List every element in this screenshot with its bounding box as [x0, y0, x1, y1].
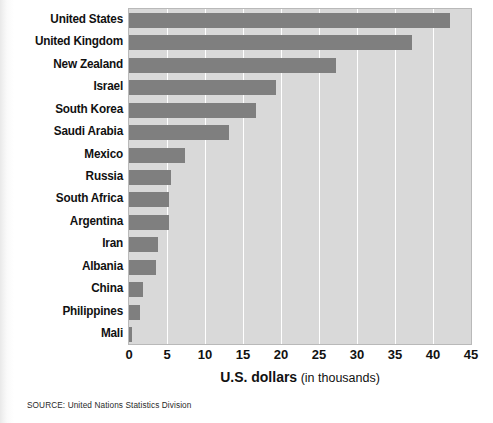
bar [129, 192, 169, 207]
x-tick-label: 20 [274, 347, 288, 363]
bar [129, 237, 158, 252]
y-axis-label: Israel [13, 80, 123, 93]
y-axis-label: Albania [13, 260, 123, 273]
x-tick-label: 40 [426, 347, 440, 363]
bar [129, 103, 256, 118]
x-tick-label: 0 [125, 347, 132, 363]
bar [129, 80, 276, 95]
bar [129, 215, 169, 230]
y-axis-label: Mali [13, 327, 123, 340]
y-axis-label: United Kingdom [13, 35, 123, 48]
gridline [395, 9, 396, 344]
x-axis-title-main: U.S. dollars [220, 369, 297, 385]
y-axis-label: New Zealand [13, 58, 123, 71]
bar [129, 35, 412, 50]
bar [129, 327, 132, 342]
x-axis-title-unit-text: (in thousands) [301, 371, 380, 385]
x-tick-label: 45 [464, 347, 478, 363]
x-tick-label: 5 [163, 347, 170, 363]
bar [129, 260, 156, 275]
gridline [357, 9, 358, 344]
x-tick-label: 30 [350, 347, 364, 363]
y-axis-label: Mexico [13, 148, 123, 161]
bar [129, 148, 185, 163]
y-axis-label: China [13, 282, 123, 295]
y-axis-label: Argentina [13, 215, 123, 228]
bar [129, 305, 140, 320]
x-tick-label: 35 [388, 347, 402, 363]
y-axis-label: Philippines [13, 305, 123, 318]
bar [129, 125, 229, 140]
y-axis-category-labels: United StatesUnited KingdomNew ZealandIs… [6, 8, 123, 345]
gridline [433, 9, 434, 344]
x-tick-label: 25 [312, 347, 326, 363]
bar-chart-figure: United StatesUnited KingdomNew ZealandIs… [0, 0, 493, 423]
bar [129, 282, 143, 297]
x-tick-label: 15 [236, 347, 250, 363]
y-axis-label: Russia [13, 170, 123, 183]
bar [129, 170, 171, 185]
y-axis-label: Saudi Arabia [13, 125, 123, 138]
y-axis-label: United States [13, 13, 123, 26]
x-tick-label: 10 [198, 347, 212, 363]
gridline [471, 9, 472, 344]
y-axis-label: South Africa [13, 192, 123, 205]
source-note: SOURCE: United Nations Statistics Divisi… [27, 400, 191, 410]
x-axis-tick-labels: 051015202530354045 [128, 347, 472, 365]
y-axis-label: Iran [13, 237, 123, 250]
y-axis-label: South Korea [13, 103, 123, 116]
plot-area [128, 8, 472, 345]
bar [129, 58, 336, 73]
x-axis-title: U.S. dollars (in thousands) [128, 368, 472, 386]
bar [129, 13, 450, 28]
